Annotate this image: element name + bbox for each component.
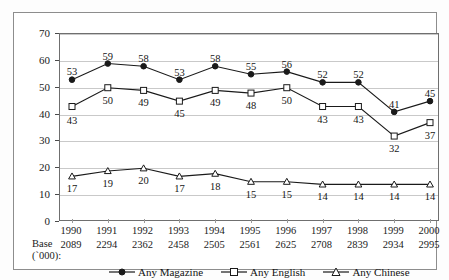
marker-0-2000 [427, 98, 433, 104]
marker-1-1994 [212, 87, 218, 93]
marker-1-1998 [355, 104, 361, 110]
legend-label-any-magazine: Any Magazine [138, 266, 203, 278]
y-tick-mark-20 [55, 167, 59, 168]
y-tick-label-50: 50 [24, 82, 50, 92]
chart-legend: Any Magazine Any English Any Chinese [109, 264, 389, 280]
x-axis-label-1993: 1993 [168, 225, 189, 236]
data-label-any-english-1990: 43 [67, 115, 78, 126]
x-axis-label-1999: 1999 [383, 225, 404, 236]
marker-1-1995 [248, 90, 254, 96]
y-tick-label-70: 70 [24, 28, 50, 38]
marker-0-1996 [284, 69, 290, 75]
y-tick-mark-30 [55, 140, 59, 141]
x-axis-label-1996: 1996 [275, 225, 296, 236]
marker-1-1991 [105, 85, 111, 91]
base-caption-line2: (`000): [32, 250, 61, 262]
base-value-1999: 2934 [383, 239, 404, 250]
marker-0-1995 [248, 71, 254, 77]
data-label-any-english-1995: 48 [246, 100, 257, 111]
y-tick-label-60: 60 [24, 55, 50, 65]
base-value-1993: 2458 [168, 239, 189, 250]
x-tick-mark-1992 [144, 219, 145, 223]
marker-0-1990 [69, 77, 75, 83]
data-label-any-chinese-1996: 15 [282, 189, 293, 200]
base-value-1991: 2294 [96, 239, 117, 250]
data-label-any-chinese-1999: 14 [389, 191, 400, 202]
marker-1-1997 [320, 104, 326, 110]
legend-label-any-english: Any English [250, 266, 305, 278]
data-label-any-magazine-1995: 55 [246, 61, 257, 72]
x-tick-mark-1999 [394, 219, 395, 223]
base-caption-line1: Base [32, 238, 61, 250]
data-label-any-magazine-1993: 53 [174, 67, 185, 78]
chart-screenshot: 5359585358555652524145435049454948504343… [0, 0, 449, 280]
data-label-any-chinese-1995: 15 [246, 189, 257, 200]
y-tick-label-10: 10 [24, 189, 50, 199]
data-label-any-english-1994: 49 [210, 97, 221, 108]
marker-1-1990 [69, 104, 75, 110]
data-label-any-magazine-1998: 52 [353, 69, 364, 80]
base-value-1992: 2362 [132, 239, 153, 250]
y-tick-mark-70 [55, 33, 59, 34]
x-tick-mark-2000 [430, 219, 431, 223]
marker-1-2000 [427, 120, 433, 126]
legend-item-any-chinese: Any Chinese [323, 266, 409, 278]
x-axis-label-1997: 1997 [311, 225, 332, 236]
x-tick-mark-1996 [287, 219, 288, 223]
data-label-any-english-1992: 49 [138, 97, 149, 108]
data-label-any-chinese-2000: 14 [425, 191, 436, 202]
marker-2-1994 [212, 170, 219, 176]
marker-2-1992 [140, 165, 147, 171]
y-tick-label-40: 40 [24, 109, 50, 119]
marker-1-1992 [141, 87, 147, 93]
base-values-row: 2089229423622458250525612625270828392934… [59, 239, 439, 255]
data-label-any-magazine-1996: 56 [282, 59, 293, 70]
data-label-any-chinese-1998: 14 [353, 191, 364, 202]
data-label-any-chinese-1991: 19 [103, 178, 114, 189]
marker-1-1996 [284, 85, 290, 91]
marker-0-1991 [105, 61, 111, 67]
marker-1-1993 [176, 98, 182, 104]
x-axis-label-2000: 2000 [419, 225, 440, 236]
data-label-any-chinese-1992: 20 [138, 175, 149, 186]
x-axis-label-1992: 1992 [132, 225, 153, 236]
legend-item-any-english: Any English [221, 266, 305, 278]
marker-0-1997 [320, 80, 326, 86]
base-value-1995: 2561 [240, 239, 261, 250]
x-tick-mark-1997 [323, 219, 324, 223]
legend-item-any-magazine: Any Magazine [109, 266, 203, 278]
base-value-1996: 2625 [275, 239, 296, 250]
data-label-any-magazine-1999: 41 [389, 99, 400, 110]
data-label-any-magazine-1997: 52 [317, 69, 328, 80]
x-tick-mark-1991 [108, 219, 109, 223]
legend-label-any-chinese: Any Chinese [352, 266, 409, 278]
data-label-any-chinese-1994: 18 [210, 181, 221, 192]
data-label-any-chinese-1990: 17 [67, 183, 78, 194]
base-value-1997: 2708 [311, 239, 332, 250]
marker-0-1998 [356, 80, 362, 86]
base-value-1990: 2089 [61, 239, 82, 250]
y-tick-label-30: 30 [24, 135, 50, 145]
figure-border: 5359585358555652524145435049454948504343… [13, 12, 437, 270]
marker-0-1999 [391, 109, 397, 115]
x-tick-mark-1995 [251, 219, 252, 223]
data-label-any-english-1997: 43 [317, 114, 328, 125]
x-axis-label-1998: 1998 [347, 225, 368, 236]
x-tick-mark-1994 [215, 219, 216, 223]
x-tick-mark-1993 [179, 219, 180, 223]
data-label-any-english-1993: 45 [174, 108, 185, 119]
data-label-any-magazine-1992: 58 [138, 53, 149, 64]
marker-0-1992 [141, 63, 147, 69]
y-tick-mark-10 [55, 194, 59, 195]
data-label-any-english-1996: 50 [282, 95, 293, 106]
data-label-any-chinese-1993: 17 [174, 183, 185, 194]
x-tick-mark-1990 [72, 219, 73, 223]
marker-0-1994 [212, 63, 218, 69]
x-axis-label-1990: 1990 [61, 225, 82, 236]
data-label-any-english-2000: 37 [425, 130, 436, 141]
y-tick-label-0: 0 [24, 216, 50, 226]
y-tick-mark-0 [55, 221, 59, 222]
open-square-icon [221, 267, 247, 277]
base-value-1998: 2839 [347, 239, 368, 250]
plot-area: 5359585358555652524145435049454948504343… [59, 33, 439, 221]
